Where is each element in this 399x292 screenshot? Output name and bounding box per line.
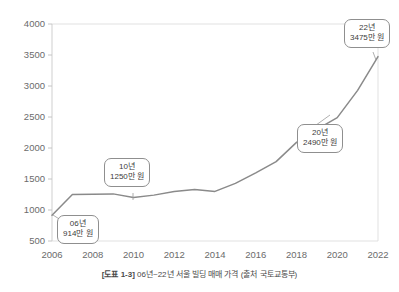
callout-2006-value: 914만 원 <box>63 229 93 239</box>
leader-line-2022 <box>373 52 376 60</box>
ytick-label-3500: 3500 <box>24 49 45 60</box>
callout-2022-value: 3475만 원 <box>350 33 384 43</box>
y-tick-marks <box>48 24 52 241</box>
xtick-label-2022: 2022 <box>367 249 388 260</box>
xtick-label-2016: 2016 <box>245 249 266 260</box>
callout-2006-year: 06년 <box>63 219 93 229</box>
caption-text: 06년~22년 서울 빌딩 매매 가격 (출처 국토교통부) <box>135 270 297 279</box>
callout-2022: 22년 3475만 원 <box>344 19 390 48</box>
xtick-label-2018: 2018 <box>286 249 307 260</box>
xtick-label-2006: 2006 <box>41 249 62 260</box>
xtick-label-2014: 2014 <box>204 249 225 260</box>
xtick-label-2020: 2020 <box>327 249 348 260</box>
ytick-label-3000: 3000 <box>24 80 45 91</box>
caption-tag: [도표 1-3] <box>102 270 135 279</box>
callout-2010-value: 1250만 원 <box>110 172 144 182</box>
callout-2020-value: 2490만 원 <box>303 138 337 148</box>
figure-container: 4000 3500 3000 2500 2000 1500 1000 500 2… <box>0 0 399 292</box>
xtick-label-2010: 2010 <box>123 249 144 260</box>
ytick-label-4000: 4000 <box>24 18 45 29</box>
ytick-label-2500: 2500 <box>24 111 45 122</box>
xtick-label-2012: 2012 <box>164 249 185 260</box>
callout-2020-year: 20년 <box>303 128 337 138</box>
callout-2020: 20년 2490만 원 <box>297 124 343 153</box>
callout-2010: 10년 1250만 원 <box>104 158 150 187</box>
ytick-label-500: 500 <box>29 235 45 246</box>
ytick-label-2000: 2000 <box>24 142 45 153</box>
ytick-label-1500: 1500 <box>24 173 45 184</box>
figure-caption: [도표 1-3] 06년~22년 서울 빌딩 매매 가격 (출처 국토교통부) <box>0 268 399 279</box>
ytick-label-1000: 1000 <box>24 204 45 215</box>
callout-2006: 06년 914만 원 <box>57 215 99 244</box>
callout-2022-year: 22년 <box>350 23 384 33</box>
callout-2010-year: 10년 <box>110 162 144 172</box>
xtick-label-2008: 2008 <box>82 249 103 260</box>
